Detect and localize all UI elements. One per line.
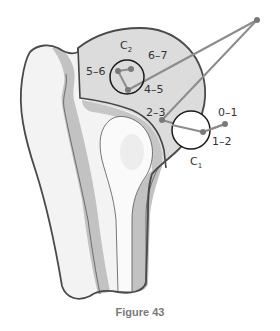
label-4-5: 4–5: [144, 83, 164, 96]
label-6-7: 6–7: [148, 49, 168, 62]
label-2-3: 2–3: [146, 106, 166, 119]
label-1-2: 1–2: [212, 135, 232, 148]
figure-caption: Figure 43: [0, 306, 280, 318]
cavity-highlight: [120, 134, 144, 170]
point-4-5: [125, 87, 131, 93]
point-apex: [254, 17, 260, 23]
hip-joint-diagram: C2 6–7 5–6 4–5 2–3 0–1 1–2 C1: [0, 0, 280, 331]
point-1-2: [200, 129, 206, 135]
label-5-6: 5–6: [86, 65, 106, 78]
label-0-1: 0–1: [218, 106, 238, 119]
point-6-7: [128, 66, 134, 72]
point-5-6: [115, 68, 121, 74]
point-0-1: [222, 121, 228, 127]
label-c1: C1: [190, 155, 202, 170]
